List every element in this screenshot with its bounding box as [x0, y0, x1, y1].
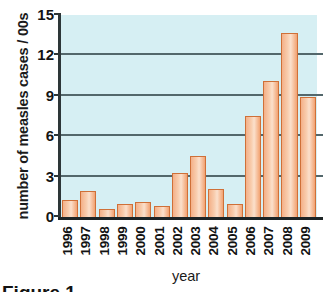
plot-area: [58, 15, 317, 217]
bar-1997: [80, 191, 96, 217]
bar-1996: [62, 200, 78, 218]
bar-2006: [245, 116, 261, 217]
x-tick-cell: 1999: [113, 220, 131, 268]
bar-2008: [281, 33, 297, 217]
x-tick-label: 2006: [242, 227, 257, 256]
y-tick-label: 6: [22, 127, 54, 144]
x-tick-label: 2009: [297, 227, 312, 256]
bar-cell: [299, 15, 317, 217]
y-tick-mark: [54, 175, 61, 177]
measles-bar-chart-figure: number of measles cases / 00s 03691215 1…: [0, 0, 324, 292]
bar-cell: [79, 15, 97, 217]
x-tick-cell: 2007: [259, 220, 277, 268]
x-tick-cell: 1997: [76, 220, 94, 268]
y-tick-mark: [54, 215, 61, 217]
bar-cell: [244, 15, 262, 217]
bar-1998: [99, 209, 115, 217]
bar-cell: [134, 15, 152, 217]
bar-2001: [154, 206, 170, 217]
x-tick-label: 2008: [279, 227, 294, 256]
x-tick-cell: 2008: [277, 220, 295, 268]
y-tick-mark: [54, 13, 61, 15]
bar-cell: [152, 15, 170, 217]
bar-cell: [280, 15, 298, 217]
y-tick-label: 0: [22, 208, 54, 225]
bar-cell: [262, 15, 280, 217]
y-tick-mark: [54, 53, 61, 55]
x-tick-cell: 2006: [241, 220, 259, 268]
x-axis-tick-labels: 1996199719981999200020012002200320042005…: [58, 220, 314, 268]
bar-series: [61, 15, 317, 217]
x-tick-cell: 2000: [131, 220, 149, 268]
x-tick-cell: 2004: [204, 220, 222, 268]
x-tick-label: 2000: [133, 227, 148, 256]
x-tick-cell: 2002: [168, 220, 186, 268]
x-tick-cell: 2005: [223, 220, 241, 268]
bar-2005: [227, 204, 243, 217]
y-tick-label: 12: [22, 46, 54, 63]
x-tick-label: 1999: [114, 227, 129, 256]
y-tick-mark: [54, 134, 61, 136]
x-tick-cell: 1998: [95, 220, 113, 268]
bar-2004: [208, 189, 224, 217]
x-tick-label: 1998: [96, 227, 111, 256]
bar-2007: [263, 81, 279, 217]
bar-2009: [300, 97, 316, 217]
bar-1999: [117, 204, 133, 217]
x-tick-cell: 2009: [296, 220, 314, 268]
x-tick-label: 2004: [206, 227, 221, 256]
x-tick-cell: 1996: [58, 220, 76, 268]
x-tick-cell: 2003: [186, 220, 204, 268]
y-tick-mark: [54, 94, 61, 96]
bar-cell: [226, 15, 244, 217]
bar-cell: [171, 15, 189, 217]
bar-cell: [207, 15, 225, 217]
x-tick-label: 1997: [78, 227, 93, 256]
y-tick-label: 9: [22, 87, 54, 104]
bar-2000: [135, 202, 151, 217]
x-tick-label: 1996: [60, 227, 75, 256]
x-axis-title: year: [58, 268, 314, 284]
bar-2002: [172, 173, 188, 217]
y-tick-label: 15: [22, 6, 54, 23]
x-tick-cell: 2001: [149, 220, 167, 268]
x-tick-label: 2003: [188, 227, 203, 256]
figure-caption: Figure 1: [2, 283, 76, 292]
y-tick-label: 3: [22, 168, 54, 185]
x-tick-label: 2007: [261, 227, 276, 256]
bar-2003: [190, 156, 206, 217]
bar-cell: [98, 15, 116, 217]
x-tick-label: 2005: [224, 227, 239, 256]
x-tick-label: 2001: [151, 227, 166, 256]
x-tick-label: 2002: [169, 227, 184, 256]
bar-cell: [61, 15, 79, 217]
y-axis-tick-labels: 03691215: [22, 0, 54, 292]
bar-cell: [116, 15, 134, 217]
bar-cell: [189, 15, 207, 217]
